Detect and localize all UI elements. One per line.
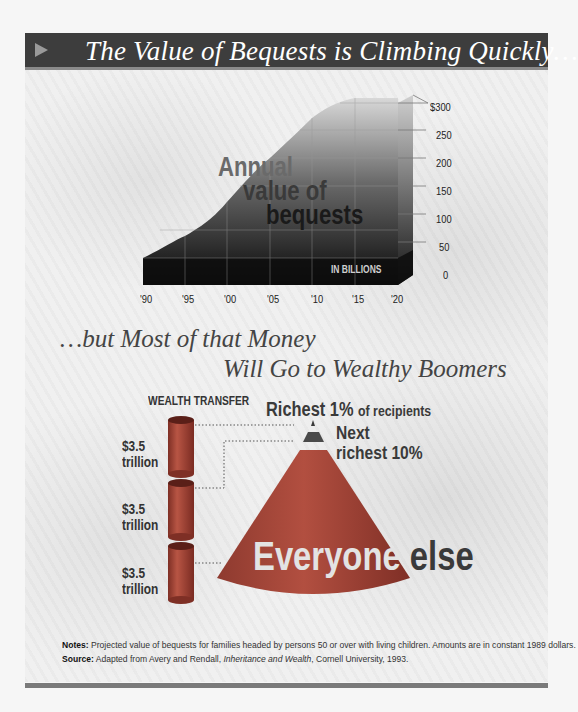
cylinder-2 [168,479,194,541]
source-text-a: Adapted from Avery and Rendall, [94,653,224,664]
pyramid-label-top-suffix: of recipients [358,402,431,419]
chart-label-line3: bequests [266,202,363,229]
cylinder-2-amount: $3.5 [122,501,158,517]
x-tick-10: '10 [311,293,323,305]
source-text-b: , Cornell University, 1993. [311,653,408,664]
pyramid-label-middle-line1: Next [336,423,423,443]
units-label: IN BILLIONS [331,264,382,275]
cylinder-1-unit: trillion [122,454,158,470]
pyramid-label-top-main: Richest 1% [266,398,354,420]
cylinder-3-unit: trillion [122,581,158,597]
pyramid-label-bottom-a: Everyone [253,534,401,578]
notes-line: Notes: Projected value of bequests for f… [62,638,576,652]
notes-label: Notes: [62,639,89,650]
bottom-rule [25,683,548,688]
y-tick-300: $300 [430,101,451,113]
cylinder-1-label: $3.5 trillion [122,438,158,470]
y-tick-0: 0 [443,269,448,281]
pyramid-label-top: Richest 1% of recipients [266,398,431,421]
x-tick-00: '00 [224,293,236,305]
y-tick-50: 50 [439,241,449,253]
source-title: Inheritance and Wealth [223,653,311,664]
cylinder-3-amount: $3.5 [122,565,158,581]
cylinder-2-label: $3.5 trillion [122,501,158,533]
cylinder-3 [168,542,194,604]
subtitle-line2: Will Go to Wealthy Boomers [223,355,507,383]
x-tick-05: '05 [267,293,279,305]
y-tick-150: 150 [436,185,452,197]
x-tick-90: '90 [140,293,152,305]
cylinder-1-amount: $3.5 [122,438,158,454]
cylinder-3-label: $3.5 trillion [122,565,158,597]
pyramid-label-middle: Next richest 10% [336,423,423,463]
cone-middle-next-10 [303,432,324,442]
cylinder-1 [168,416,194,478]
pyramid-label-bottom: Everyone else [253,534,474,579]
x-tick-20: '20 [391,293,403,305]
cylinder-2-unit: trillion [122,517,158,533]
y-tick-100: 100 [436,213,452,225]
pyramid-label-bottom-b: else [410,534,474,578]
x-tick-15: '15 [352,293,364,305]
source-label: Source: [62,653,94,664]
notes-text: Projected value of bequests for families… [89,639,576,650]
source-line: Source: Adapted from Avery and Rendall, … [62,652,576,666]
footer-notes: Notes: Projected value of bequests for f… [62,638,576,666]
y-tick-200: 200 [436,157,452,169]
pyramid-label-middle-line2: richest 10% [336,443,423,463]
wealth-transfer-heading: WEALTH TRANSFER [148,394,249,408]
y-tick-250: 250 [436,129,452,141]
x-tick-95: '95 [182,293,194,305]
subtitle-line1: …but Most of that Money [60,325,316,353]
